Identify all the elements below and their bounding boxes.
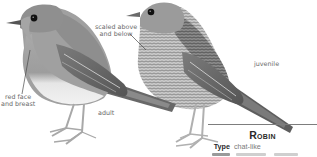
fact-key: Type	[208, 143, 230, 151]
species-info-panel: Robin Typechat-like	[208, 124, 317, 157]
fact-row-type: Typechat-like	[208, 143, 317, 151]
cropped-text	[274, 153, 298, 156]
fact-value: chat-like	[234, 142, 261, 151]
field-guide-page: scaled above and below red face and brea…	[0, 0, 317, 157]
annotation-line: and breast	[1, 101, 35, 108]
red-face-annotation: red face and breast	[1, 94, 35, 108]
scaled-annotation: scaled above and below	[95, 24, 137, 38]
annotation-line: and below	[95, 31, 137, 38]
juvenile-label: juvenile	[254, 61, 279, 68]
divider-rule	[208, 124, 317, 125]
species-title: Robin	[208, 129, 317, 141]
adult-label: adult	[98, 110, 114, 117]
cropped-text	[236, 153, 266, 156]
fact-row-cropped	[208, 152, 317, 157]
cropped-text	[212, 153, 230, 156]
